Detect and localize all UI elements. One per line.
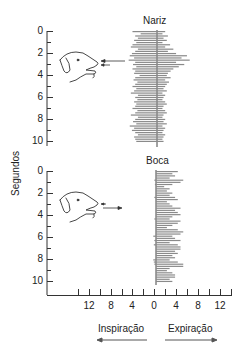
bar-inspiration: [138, 117, 157, 118]
bar-inspiration: [135, 119, 157, 120]
bar-inspiration: [131, 92, 157, 93]
bar-inspiration: [133, 121, 157, 122]
bar-expiration: [157, 121, 164, 122]
bar-expiration: [157, 68, 173, 69]
bar-inspiration: [136, 141, 157, 142]
bar-expiration: [157, 110, 165, 111]
bar-expiration: [157, 134, 165, 135]
bar-expiration: [156, 221, 181, 222]
bar-expiration: [157, 112, 167, 113]
bar-expiration: [157, 88, 164, 89]
bar-expiration: [157, 84, 167, 85]
bar-expiration: [157, 35, 168, 36]
bar-expiration: [156, 188, 170, 189]
bar-expiration: [156, 261, 178, 262]
bar-inspiration: [135, 77, 157, 78]
bar-expiration: [156, 214, 181, 215]
bar-expiration: [157, 117, 162, 118]
bar-inspiration: [135, 71, 157, 72]
bar-inspiration: [154, 218, 156, 219]
bar-inspiration: [134, 40, 157, 41]
bar-expiration: [156, 177, 170, 178]
bar-expiration: [156, 274, 175, 275]
bar-expiration: [157, 62, 176, 63]
bar-expiration: [156, 212, 178, 213]
bar-expiration: [156, 190, 167, 191]
bar-inspiration: [134, 136, 157, 137]
bar-expiration: [157, 119, 165, 120]
bottom-axes: [47, 171, 232, 296]
bar-expiration: [156, 272, 172, 273]
bar-inspiration: [132, 31, 157, 32]
chart-canvas: [0, 0, 243, 353]
bar-expiration: [156, 240, 181, 241]
inspiration-arrow-icon: [97, 338, 147, 342]
bar-expiration: [157, 77, 171, 78]
bar-inspiration: [134, 90, 157, 91]
bar-expiration: [157, 125, 162, 126]
bar-inspiration: [135, 84, 157, 85]
bar-inspiration: [137, 110, 157, 111]
bar-expiration: [157, 128, 165, 129]
bar-expiration: [156, 205, 172, 206]
bar-inspiration: [132, 130, 157, 131]
bar-inspiration: [134, 79, 157, 80]
bar-expiration: [157, 79, 165, 80]
bar-expiration: [157, 60, 190, 61]
bar-expiration: [156, 277, 175, 278]
bar-expiration: [157, 101, 165, 102]
bar-expiration: [157, 73, 168, 74]
bar-expiration: [157, 114, 164, 115]
bar-expiration: [157, 66, 179, 67]
bar-expiration: [157, 108, 162, 109]
bar-inspiration: [153, 259, 156, 260]
bar-expiration: [157, 141, 164, 142]
bar-expiration: [156, 231, 183, 232]
bar-expiration: [157, 38, 164, 39]
bar-expiration: [156, 186, 164, 187]
bar-inspiration: [155, 184, 156, 185]
bar-inspiration: [134, 57, 157, 58]
bar-expiration: [157, 51, 168, 52]
bar-expiration: [156, 173, 172, 174]
bar-expiration: [157, 33, 162, 34]
bar-inspiration: [131, 46, 157, 47]
bar-expiration: [157, 53, 176, 54]
bar-expiration: [156, 223, 178, 224]
bar-expiration: [156, 249, 181, 250]
bar-expiration: [156, 193, 172, 194]
bar-inspiration: [136, 103, 157, 104]
bar-expiration: [156, 233, 181, 234]
bar-inspiration: [130, 125, 157, 126]
bar-expiration: [156, 268, 170, 269]
bar-expiration: [157, 92, 162, 93]
bar-expiration: [156, 253, 178, 254]
bar-expiration: [156, 257, 175, 258]
bar-expiration: [157, 123, 167, 124]
bar-inspiration: [136, 66, 157, 67]
bar-expiration: [157, 42, 162, 43]
inhale-arrow-icon: [101, 60, 125, 67]
bar-expiration: [157, 46, 165, 47]
bar-inspiration: [154, 197, 156, 198]
bar-expiration: [156, 218, 170, 219]
bar-expiration: [157, 75, 167, 76]
bar-expiration: [156, 259, 170, 260]
bar-expiration: [156, 199, 178, 200]
bar-expiration: [156, 251, 175, 252]
bar-expiration: [157, 82, 169, 83]
bar-expiration: [156, 216, 172, 217]
bar-inspiration: [129, 60, 157, 61]
bar-inspiration: [132, 53, 157, 54]
bar-expiration: [156, 225, 172, 226]
bar-expiration: [156, 270, 167, 271]
bar-inspiration: [154, 244, 156, 245]
bar-expiration: [157, 71, 171, 72]
bar-expiration: [157, 106, 164, 107]
bar-inspiration: [135, 97, 157, 98]
bar-inspiration: [130, 55, 157, 56]
bar-inspiration: [138, 134, 157, 135]
bar-expiration: [156, 180, 183, 181]
bar-expiration: [157, 49, 173, 50]
bar-expiration: [156, 227, 167, 228]
